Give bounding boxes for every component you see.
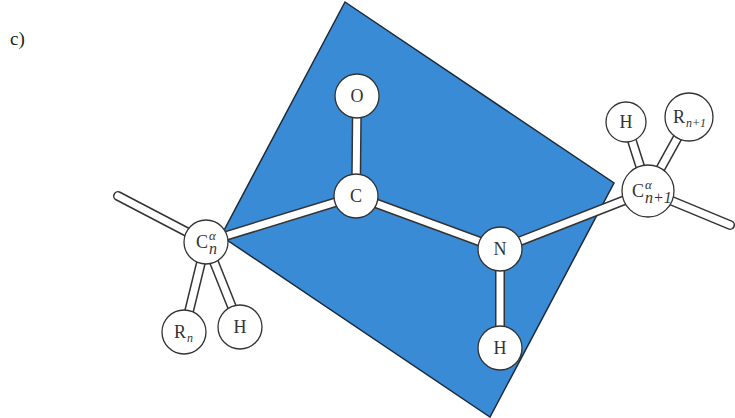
atom-subscript: n <box>209 240 217 257</box>
atom-label: C <box>196 232 208 252</box>
atom-subscript: n+1 <box>645 189 672 206</box>
atom-ca-n: Cαn <box>184 220 228 264</box>
atom-r-n1: Rn+1 <box>665 93 713 141</box>
atom-label: C <box>632 181 644 201</box>
peptide-plane-polygon <box>221 2 614 417</box>
atom-label: H <box>494 338 507 358</box>
atom-label: O <box>351 86 364 106</box>
peptide-plane <box>221 2 614 417</box>
atom-label: R <box>174 322 186 342</box>
atom-c: C <box>334 174 378 218</box>
atom-o: O <box>335 74 379 118</box>
atom-subscript: n+1 <box>686 116 706 130</box>
atom-label: H <box>234 317 247 337</box>
atom-label: C <box>350 186 362 206</box>
peptide-bond-diagram: CαnCONHCαn+1HRn+1RnH <box>0 0 735 418</box>
atom-label: N <box>494 239 507 259</box>
atom-h-can: H <box>218 305 262 349</box>
atom-ca-n1: Cαn+1 <box>622 165 674 217</box>
atom-n: N <box>478 227 522 271</box>
atom-label: H <box>620 112 633 132</box>
atom-subscript: n <box>187 331 193 345</box>
atom-r-n: Rn <box>162 310 206 354</box>
atom-h-can1: H <box>606 102 646 142</box>
atom-label: R <box>673 107 685 127</box>
atom-h-n: H <box>478 326 522 370</box>
